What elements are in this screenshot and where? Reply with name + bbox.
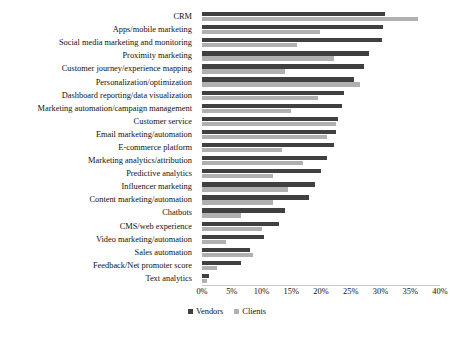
bar-clients	[202, 213, 241, 217]
category-label-row: Dashboard reporting/data visualization	[0, 89, 192, 102]
category-label: Proximity marketing	[122, 51, 192, 60]
bar-group	[202, 115, 440, 128]
category-label: Social media marketing and monitoring	[59, 38, 192, 47]
category-label: Influencer marketing	[122, 182, 192, 191]
bar-group	[202, 180, 440, 193]
bar-vendors	[202, 169, 321, 173]
value-axis-line	[202, 285, 440, 286]
bar-group	[202, 272, 440, 285]
bar-group	[202, 220, 440, 233]
category-label-row: Influencer marketing	[0, 180, 192, 193]
category-label: E-commerce platform	[118, 143, 192, 152]
bar-group	[202, 141, 440, 154]
bar-group	[202, 259, 440, 272]
category-label-row: Feedback/Net promoter score	[0, 259, 192, 272]
horizontal-bar-chart: CRMApps/mobile marketingSocial media mar…	[0, 0, 454, 337]
category-label: Personalization/optimization	[96, 78, 192, 87]
category-label: Apps/mobile marketing	[113, 25, 192, 34]
category-label: Chatbots	[162, 208, 192, 217]
bar-group	[202, 62, 440, 75]
bar-group	[202, 233, 440, 246]
bar-clients	[202, 135, 327, 139]
category-label-row: Content marketing/automation	[0, 193, 192, 206]
bar-vendors	[202, 248, 250, 252]
bar-clients	[202, 148, 282, 152]
bar-group	[202, 10, 440, 23]
axis-tick-label: 35%	[403, 287, 418, 296]
category-label-row: Marketing automation/campaign management	[0, 102, 192, 115]
category-label-row: Customer journey/experience mapping	[0, 62, 192, 75]
bar-clients	[202, 174, 273, 178]
bar-vendors	[202, 195, 309, 199]
bar-group	[202, 89, 440, 102]
bar-vendors	[202, 51, 369, 55]
bar-clients	[202, 279, 207, 283]
bar-vendors	[202, 77, 354, 81]
bar-vendors	[202, 156, 327, 160]
bar-vendors	[202, 25, 383, 29]
bar-group	[202, 36, 440, 49]
bar-vendors	[202, 222, 279, 226]
axis-tick-label: 20%	[313, 287, 328, 296]
axis-tick-label: 30%	[373, 287, 388, 296]
category-label-row: Proximity marketing	[0, 49, 192, 62]
bar-group	[202, 102, 440, 115]
category-label: Predictive analytics	[126, 169, 192, 178]
category-label-row: Text analytics	[0, 272, 192, 285]
category-label-row: CRM	[0, 10, 192, 23]
bar-vendors	[202, 12, 385, 16]
category-label: Dashboard reporting/data visualization	[62, 91, 192, 100]
category-label-row: Personalization/optimization	[0, 75, 192, 88]
bar-clients	[202, 17, 418, 21]
category-label-row: Video marketing/automation	[0, 233, 192, 246]
bar-clients	[202, 109, 291, 113]
category-label: Video marketing/automation	[96, 235, 192, 244]
bar-clients	[202, 187, 288, 191]
legend-item: Vendors	[188, 307, 223, 316]
legend-label: Vendors	[196, 307, 223, 316]
bar-group	[202, 193, 440, 206]
category-label: CMS/web experience	[120, 222, 192, 231]
category-label-row: E-commerce platform	[0, 141, 192, 154]
category-label-row: Chatbots	[0, 206, 192, 219]
bar-group	[202, 167, 440, 180]
legend-swatch-icon	[234, 309, 239, 314]
category-label: Customer journey/experience mapping	[62, 64, 192, 73]
axis-tick-label: 25%	[343, 287, 358, 296]
category-label-row: Social media marketing and monitoring	[0, 36, 192, 49]
bar-clients	[202, 30, 320, 34]
bar-group	[202, 75, 440, 88]
category-label: Customer service	[134, 117, 192, 126]
legend-label: Clients	[242, 307, 266, 316]
category-label: Feedback/Net promoter score	[93, 261, 192, 270]
bar-group	[202, 206, 440, 219]
bar-vendors	[202, 261, 241, 265]
bar-vendors	[202, 130, 336, 134]
axis-tick-label: 40%	[432, 287, 447, 296]
category-label: Content marketing/automation	[89, 195, 192, 204]
bar-clients	[202, 56, 334, 60]
bar-group	[202, 49, 440, 62]
category-axis-labels: CRMApps/mobile marketingSocial media mar…	[0, 10, 192, 285]
axis-tick-label: 15%	[284, 287, 299, 296]
bar-vendors	[202, 104, 342, 108]
bar-group	[202, 128, 440, 141]
bar-group	[202, 154, 440, 167]
category-label-row: Email marketing/automation	[0, 128, 192, 141]
category-label-row: CMS/web experience	[0, 220, 192, 233]
category-label-row: Marketing analytics/attribution	[0, 154, 192, 167]
bar-vendors	[202, 208, 285, 212]
bar-clients	[202, 122, 336, 126]
bar-clients	[202, 200, 273, 204]
bar-clients	[202, 161, 303, 165]
category-label-row: Sales automation	[0, 246, 192, 259]
axis-tick-label: 10%	[254, 287, 269, 296]
bar-clients	[202, 43, 297, 47]
category-label: Sales automation	[135, 248, 192, 257]
plot-area	[202, 10, 440, 285]
bar-clients	[202, 266, 217, 270]
category-label: Email marketing/automation	[96, 130, 192, 139]
bar-vendors	[202, 91, 344, 95]
bar-group	[202, 23, 440, 36]
category-label: Marketing automation/campaign management	[38, 104, 192, 113]
